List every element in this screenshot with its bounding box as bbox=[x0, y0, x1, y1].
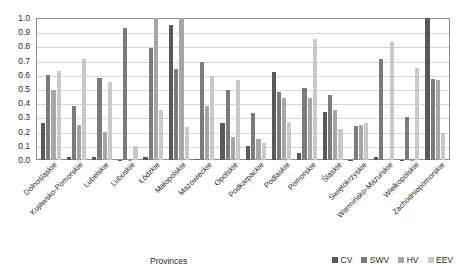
bar bbox=[46, 75, 50, 160]
bar-group bbox=[346, 18, 372, 160]
x-axis-label: Lubuskie bbox=[109, 161, 136, 188]
bar bbox=[57, 71, 61, 160]
y-axis-tick-label: 0.1 bbox=[18, 142, 30, 151]
legend: CVSWVHVEEV bbox=[332, 255, 453, 265]
bar bbox=[149, 48, 153, 160]
bar bbox=[97, 78, 101, 160]
bar bbox=[77, 125, 81, 161]
bar bbox=[323, 112, 327, 160]
legend-label: SWV bbox=[370, 255, 389, 265]
bar bbox=[51, 90, 55, 160]
legend-item[interactable]: HV bbox=[398, 255, 418, 265]
bar bbox=[277, 92, 281, 160]
bar bbox=[333, 110, 337, 160]
bar bbox=[297, 153, 301, 160]
bar-chart: 1.00.90.80.70.60.50.40.30.20.10.0 Dolnoś… bbox=[0, 0, 470, 275]
bar bbox=[154, 18, 158, 160]
bar bbox=[82, 59, 86, 160]
legend-label: CV bbox=[341, 255, 353, 265]
bar-group bbox=[89, 18, 115, 160]
y-axis-tick-label: 0.6 bbox=[18, 71, 30, 80]
bar bbox=[174, 69, 178, 160]
bar bbox=[103, 132, 107, 160]
bar bbox=[118, 160, 122, 161]
bar bbox=[354, 126, 358, 160]
bar bbox=[287, 122, 291, 160]
legend-item[interactable]: CV bbox=[332, 255, 352, 265]
bar bbox=[169, 25, 173, 160]
bar-group bbox=[141, 18, 167, 160]
bar bbox=[405, 117, 409, 160]
bar bbox=[313, 39, 317, 160]
legend-swatch-icon bbox=[332, 257, 338, 263]
bars-layer bbox=[36, 18, 450, 160]
x-axis-title: Provinces bbox=[150, 256, 187, 266]
y-axis-tick-label: 0.9 bbox=[18, 28, 30, 37]
x-axis-label: Śląskie bbox=[320, 161, 343, 184]
bar bbox=[415, 68, 419, 160]
y-axis-tick-label: 0.7 bbox=[18, 56, 30, 65]
bar bbox=[67, 157, 71, 160]
bar bbox=[431, 79, 435, 160]
bar-group bbox=[320, 18, 346, 160]
bar bbox=[205, 106, 209, 160]
bar bbox=[195, 159, 199, 160]
bar bbox=[72, 106, 76, 160]
bar-group bbox=[243, 18, 269, 160]
bar bbox=[179, 18, 183, 160]
bar bbox=[308, 98, 312, 160]
y-axis-tick-label: 0.4 bbox=[18, 99, 30, 108]
bar-group bbox=[397, 18, 423, 160]
y-axis: 1.00.90.80.70.60.50.40.30.20.10.0 bbox=[0, 18, 34, 160]
x-axis-labels: DolnośląskieKujawsko-PomorskieLubelskieL… bbox=[36, 161, 450, 231]
bar bbox=[210, 76, 214, 160]
y-axis-tick-label: 0.5 bbox=[18, 85, 30, 94]
bar bbox=[425, 18, 429, 160]
bar bbox=[328, 95, 332, 160]
bar bbox=[390, 42, 394, 160]
bar bbox=[441, 133, 445, 160]
bar bbox=[348, 160, 352, 161]
bar-group bbox=[166, 18, 192, 160]
bar bbox=[159, 110, 163, 160]
legend-label: HV bbox=[407, 255, 419, 265]
y-axis-tick-label: 0.2 bbox=[18, 127, 30, 136]
bar bbox=[143, 157, 147, 160]
bar bbox=[185, 127, 189, 160]
bar bbox=[436, 80, 440, 160]
bar bbox=[262, 143, 266, 160]
bar bbox=[123, 28, 127, 160]
bar bbox=[282, 98, 286, 160]
bar bbox=[251, 113, 255, 160]
bar-group bbox=[217, 18, 243, 160]
x-axis-label: Zachodniopomorskie bbox=[391, 161, 447, 217]
bar bbox=[359, 125, 363, 161]
bar bbox=[272, 72, 276, 160]
bar bbox=[364, 123, 368, 160]
bar-group bbox=[115, 18, 141, 160]
y-axis-tick-label: 0.0 bbox=[18, 156, 30, 165]
bar bbox=[108, 82, 112, 160]
bar bbox=[374, 157, 378, 160]
bar bbox=[379, 59, 383, 160]
bar-group bbox=[269, 18, 295, 160]
bar bbox=[302, 88, 306, 160]
bar-group bbox=[422, 18, 448, 160]
bar bbox=[220, 123, 224, 160]
bar bbox=[400, 160, 404, 161]
bar bbox=[338, 129, 342, 160]
legend-item[interactable]: SWV bbox=[361, 255, 389, 265]
bar bbox=[231, 137, 235, 160]
y-axis-tick-label: 0.3 bbox=[18, 113, 30, 122]
y-axis-tick-label: 0.8 bbox=[18, 42, 30, 51]
bar bbox=[200, 62, 204, 160]
bar bbox=[256, 139, 260, 160]
legend-swatch-icon bbox=[398, 257, 404, 263]
bar-group bbox=[294, 18, 320, 160]
legend-item[interactable]: EEV bbox=[428, 255, 454, 265]
bar bbox=[133, 146, 137, 160]
legend-swatch-icon bbox=[361, 257, 367, 263]
bar bbox=[41, 123, 45, 160]
y-axis-tick-label: 1.0 bbox=[18, 14, 30, 23]
legend-swatch-icon bbox=[428, 257, 434, 263]
